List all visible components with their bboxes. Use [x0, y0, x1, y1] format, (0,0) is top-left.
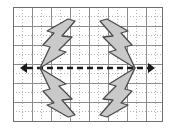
symmetry-figure — [0, 0, 175, 135]
figure-container — [0, 0, 175, 135]
